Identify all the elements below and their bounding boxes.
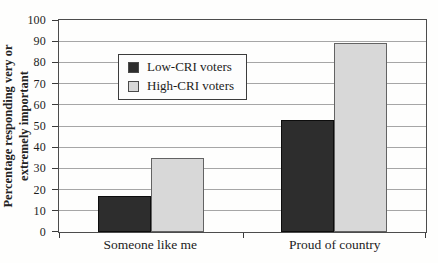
y-tick-label-80: 80: [34, 55, 46, 70]
legend-label-high-cri: High-CRI voters: [147, 78, 234, 94]
y-tick-0: [52, 231, 58, 232]
category-label-someone-like-me: Someone like me: [58, 237, 243, 253]
bar-high-cri-voters-someone-like-me: [151, 158, 204, 232]
category-label-proud-of-country: Proud of country: [243, 237, 428, 253]
legend-item-low-cri: Low-CRI voters: [128, 59, 234, 75]
y-tick-80: [52, 62, 58, 63]
plot-area: Low-CRI voters High-CRI voters: [58, 19, 427, 233]
legend-swatch-low-cri: [128, 62, 139, 73]
y-tick-70: [52, 83, 58, 84]
y-tick-label-70: 70: [34, 76, 46, 91]
y-tick-label-50: 50: [34, 119, 46, 134]
y-tick-label-100: 100: [27, 13, 46, 28]
bar-low-cri-voters-someone-like-me: [98, 196, 151, 232]
y-tick-label-30: 30: [34, 161, 46, 176]
legend-label-low-cri: Low-CRI voters: [147, 59, 232, 75]
legend-item-high-cri: High-CRI voters: [128, 78, 234, 94]
bar-low-cri-voters-proud-of-country: [281, 120, 334, 232]
y-tick-label-60: 60: [34, 97, 46, 112]
y-tick-label-0: 0: [40, 225, 46, 240]
y-tick-label-90: 90: [34, 34, 46, 49]
legend: Low-CRI voters High-CRI voters: [118, 54, 247, 100]
y-tick-10: [52, 210, 58, 211]
y-axis-tick-labels: 0102030405060708090100: [0, 19, 52, 233]
legend-swatch-high-cri: [128, 81, 139, 92]
y-tick-30: [52, 168, 58, 169]
y-tick-label-20: 20: [34, 182, 46, 197]
gridline-90: [59, 41, 426, 42]
y-tick-50: [52, 126, 58, 127]
y-tick-90: [52, 41, 58, 42]
y-tick-20: [52, 189, 58, 190]
x-axis-category-labels: Someone like me Proud of country: [58, 237, 427, 253]
bar-high-cri-voters-proud-of-country: [334, 43, 387, 232]
y-tick-label-40: 40: [34, 140, 46, 155]
y-tick-100: [52, 20, 58, 21]
y-tick-40: [52, 147, 58, 148]
y-tick-60: [52, 104, 58, 105]
bar-chart-figure: Percentage responding very or extremely …: [0, 0, 438, 263]
y-tick-label-10: 10: [34, 203, 46, 218]
